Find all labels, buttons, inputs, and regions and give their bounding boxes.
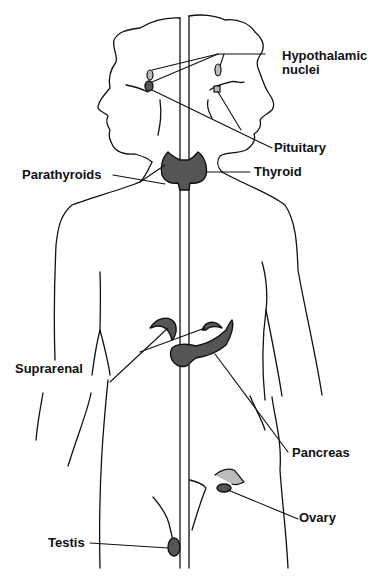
suprarenal-leader-1 bbox=[110, 328, 168, 382]
male-hypothalamic-gland bbox=[147, 70, 153, 80]
female-head-outline bbox=[189, 15, 274, 172]
male-shoulder bbox=[54, 182, 140, 360]
female-hip bbox=[250, 396, 265, 430]
label-hypothalamic: Hypothalamic nuclei bbox=[282, 49, 367, 77]
hypothalamic-leader-3 bbox=[220, 54, 224, 66]
thyroid-gland bbox=[161, 152, 206, 190]
label-parathyroids: Parathyroids bbox=[22, 168, 101, 182]
spermatic-cord bbox=[153, 497, 172, 542]
label-hypothalamic-line1: Hypothalamic bbox=[282, 49, 367, 63]
male-leg-outer bbox=[100, 380, 108, 568]
label-hypothalamic-line2: nuclei bbox=[282, 63, 367, 77]
male-arm-inner bbox=[92, 272, 100, 375]
male-hip-left-2 bbox=[68, 393, 91, 466]
female-shoulder bbox=[222, 172, 322, 395]
pituitary-leader-2 bbox=[218, 92, 241, 130]
female-pituitary-gland bbox=[214, 86, 220, 92]
ovary-leader bbox=[228, 490, 298, 519]
male-jaw-line bbox=[158, 100, 161, 135]
female-arm-inner bbox=[262, 262, 267, 400]
male-head-outline bbox=[98, 18, 180, 162]
female-arm-inner-2 bbox=[266, 310, 282, 396]
testis-leader bbox=[90, 543, 168, 548]
label-thyroid: Thyroid bbox=[254, 165, 302, 179]
male-hip-left-1 bbox=[36, 393, 43, 440]
endocrine-diagram: Hypothalamic nuclei Pituitary Thyroid Pa… bbox=[0, 0, 387, 580]
label-ovary: Ovary bbox=[299, 511, 336, 525]
male-neck-left bbox=[140, 162, 152, 182]
label-pancreas: Pancreas bbox=[292, 446, 350, 460]
label-pituitary: Pituitary bbox=[274, 141, 326, 155]
testis-gland bbox=[168, 538, 180, 556]
female-face-line bbox=[207, 100, 212, 118]
right-suprarenal-gland bbox=[202, 322, 222, 330]
uterine-line bbox=[190, 480, 206, 530]
figure-outline bbox=[0, 0, 387, 580]
ovary-tube bbox=[215, 469, 244, 485]
pituitary-leader-1 bbox=[152, 90, 272, 148]
left-suprarenal-gland bbox=[150, 318, 176, 340]
label-testis: Testis bbox=[48, 536, 85, 550]
male-arm-inner-2 bbox=[100, 330, 110, 375]
label-suprarenal: Suprarenal bbox=[15, 362, 83, 376]
female-waist bbox=[272, 397, 288, 568]
